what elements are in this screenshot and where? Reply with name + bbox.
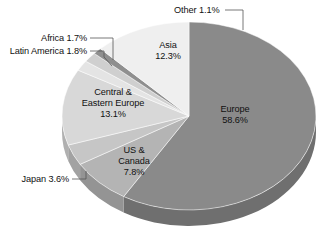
slice-label-europe: Europe58.6% [220, 104, 249, 125]
callout-label-latin-america: Latin America 1.8% [10, 46, 87, 56]
callout-label-africa: Africa 1.7% [41, 33, 87, 43]
pie-chart-canvas: Europe58.6%US &Canada7.8%Japan 3.6%Centr… [0, 0, 317, 227]
callout-label-japan: Japan 3.6% [21, 174, 69, 184]
callout-label-other: Other 1.1% [174, 5, 219, 15]
pie-chart-figure: Europe58.6%US &Canada7.8%Japan 3.6%Centr… [0, 0, 317, 227]
